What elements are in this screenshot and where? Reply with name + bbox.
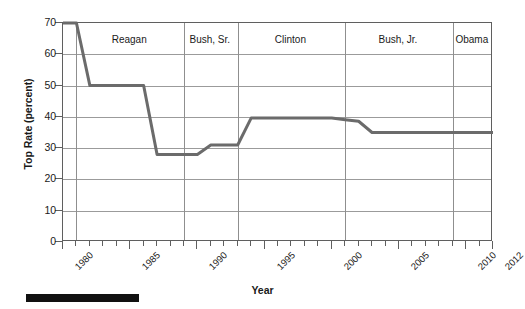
x-tick-mark — [156, 241, 157, 246]
redacted-caption-bar — [26, 294, 139, 302]
x-tick-mark — [116, 241, 117, 246]
x-tick-mark — [143, 241, 144, 246]
y-axis-label: Top Rate (percent) — [22, 34, 34, 214]
x-tick-label: 2000 — [342, 250, 364, 272]
x-tick-mark — [425, 241, 426, 246]
x-tick-mark — [371, 241, 372, 246]
x-tick-mark — [102, 241, 103, 246]
x-tick-mark — [183, 241, 184, 246]
x-tick-label: 2005 — [409, 250, 431, 272]
y-tick-label: 30 — [16, 142, 56, 153]
y-tick-label: 20 — [16, 173, 56, 184]
y-tick-mark — [55, 53, 62, 54]
x-tick-mark — [170, 241, 171, 246]
x-tick-mark — [411, 241, 412, 246]
y-tick-mark — [55, 22, 62, 23]
x-tick-mark — [264, 241, 265, 249]
x-tick-mark — [89, 241, 90, 246]
x-tick-mark — [196, 241, 197, 249]
y-tick-label: 60 — [16, 48, 56, 59]
y-tick-label: 0 — [16, 236, 56, 247]
x-tick-label: 1990 — [208, 250, 230, 272]
x-tick-mark — [304, 241, 305, 246]
tax-rate-line-chart: Top Rate (percent) 010203040506070 Reaga… — [0, 0, 525, 309]
y-tick-label: 70 — [16, 17, 56, 28]
x-tick-label: 1985 — [140, 250, 162, 272]
x-tick-mark — [398, 241, 399, 249]
y-tick-mark — [55, 178, 62, 179]
y-tick-label: 50 — [16, 80, 56, 91]
y-tick-mark — [55, 241, 62, 242]
x-tick-mark — [290, 241, 291, 246]
x-tick-mark — [492, 241, 493, 249]
x-tick-mark — [223, 241, 224, 246]
x-tick-label: 2010 — [476, 250, 498, 272]
x-tick-mark — [452, 241, 453, 246]
x-tick-mark — [75, 241, 76, 246]
x-tick-mark — [385, 241, 386, 246]
x-tick-label: 1980 — [73, 250, 95, 272]
x-tick-label: 1995 — [275, 250, 297, 272]
x-tick-mark — [344, 241, 345, 246]
x-tick-mark — [479, 241, 480, 246]
y-tick-label: 40 — [16, 111, 56, 122]
x-tick-mark — [210, 241, 211, 246]
y-tick-label: 10 — [16, 205, 56, 216]
x-tick-mark — [358, 241, 359, 246]
era-label-clinton: Clinton — [230, 34, 350, 45]
x-tick-mark — [331, 241, 332, 249]
plot-area — [62, 22, 492, 241]
x-tick-mark — [438, 241, 439, 246]
y-tick-mark — [55, 147, 62, 148]
x-tick-mark — [129, 241, 130, 249]
x-tick-mark — [317, 241, 318, 246]
data-line-series — [63, 23, 493, 242]
x-tick-mark — [62, 241, 63, 249]
era-label-obama: Obama — [412, 34, 525, 45]
y-tick-mark — [55, 85, 62, 86]
x-tick-mark — [250, 241, 251, 246]
x-tick-mark — [465, 241, 466, 249]
x-tick-label: 2012 — [503, 250, 525, 272]
x-tick-mark — [237, 241, 238, 246]
y-tick-mark — [55, 210, 62, 211]
y-tick-mark — [55, 116, 62, 117]
x-tick-mark — [277, 241, 278, 246]
